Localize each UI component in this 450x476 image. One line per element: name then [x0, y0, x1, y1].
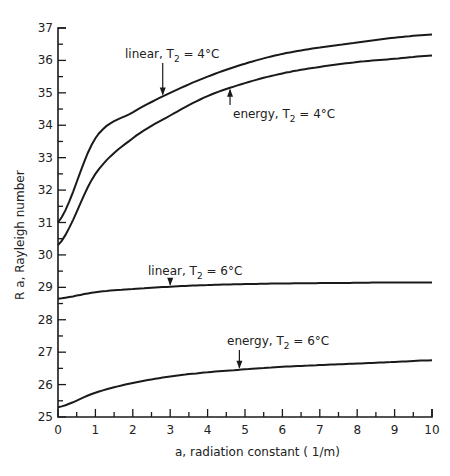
y-tick-label: 27 — [38, 345, 53, 359]
annotation-0: linear, T2 = 4°C — [125, 47, 219, 95]
y-tick-label: 28 — [38, 313, 53, 327]
x-tick-label: 1 — [92, 423, 100, 437]
curve-energy-t2-6-c — [58, 360, 432, 407]
x-tick-label: 4 — [204, 423, 212, 437]
arrow-head-icon — [160, 87, 166, 95]
y-tick-label: 25 — [38, 410, 53, 424]
annotation-label: energy, T2 = 6°C — [227, 334, 329, 351]
y-tick-label: 33 — [38, 151, 53, 165]
curve-linear-t2-6-c — [58, 282, 432, 298]
curve-energy-t2-4-c — [58, 56, 432, 246]
y-axis-title: R a, Rayleigh number — [13, 170, 27, 300]
annotation-label: energy, T2 = 4°C — [233, 107, 335, 124]
x-tick-label: 9 — [391, 423, 399, 437]
y-tick-label: 37 — [38, 21, 53, 35]
x-tick-label: 5 — [241, 423, 249, 437]
x-axis-title: a, radiation constant ( 1/m) — [175, 445, 340, 459]
y-tick-label: 32 — [38, 183, 53, 197]
curves — [58, 35, 432, 408]
annotation-3: energy, T2 = 6°C — [227, 334, 329, 369]
annotation-label: linear, T2 = 6°C — [148, 264, 242, 281]
annotation-label: linear, T2 = 4°C — [125, 47, 219, 64]
x-tick-label: 6 — [279, 423, 287, 437]
x-tick-label: 7 — [316, 423, 324, 437]
y-tick-label: 30 — [38, 248, 53, 262]
arrow-head-icon — [236, 361, 242, 369]
arrow-head-icon — [227, 89, 233, 97]
x-tick-label: 0 — [54, 423, 62, 437]
ticks: 25262728293031323334353637012345678910 — [38, 21, 440, 437]
x-axis-unit: 1/m — [312, 445, 335, 459]
y-tick-label: 36 — [38, 53, 53, 67]
axis-lines — [58, 28, 432, 417]
curve-linear-t2-4-c — [58, 35, 432, 223]
x-tick-label: 2 — [129, 423, 137, 437]
y-tick-label: 31 — [38, 216, 53, 230]
x-tick-label: 10 — [424, 423, 439, 437]
y-tick-label: 26 — [38, 378, 53, 392]
annotation-2: linear, T2 = 6°C — [148, 264, 242, 286]
x-tick-label: 8 — [353, 423, 361, 437]
x-tick-label: 3 — [166, 423, 174, 437]
rayleigh-chart: 25262728293031323334353637012345678910 l… — [0, 0, 450, 476]
y-tick-label: 34 — [38, 118, 53, 132]
y-tick-label: 35 — [38, 86, 53, 100]
annotation-1: energy, T2 = 4°C — [227, 89, 335, 124]
arrow-head-icon — [167, 278, 173, 286]
axes — [58, 28, 432, 417]
y-tick-label: 29 — [38, 280, 53, 294]
annotations: linear, T2 = 4°Cenergy, T2 = 4°Clinear, … — [125, 47, 335, 369]
